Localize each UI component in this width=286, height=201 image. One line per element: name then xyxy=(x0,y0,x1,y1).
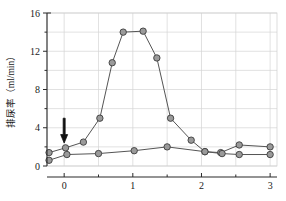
data-point xyxy=(188,137,194,143)
series-line-0 xyxy=(49,31,270,152)
data-point xyxy=(154,55,160,61)
data-point xyxy=(62,145,68,151)
annotations-group xyxy=(61,118,68,143)
data-point xyxy=(120,29,126,35)
injection-arrow xyxy=(61,118,68,143)
data-point xyxy=(236,142,242,148)
data-point xyxy=(267,144,273,150)
data-point xyxy=(267,151,273,157)
data-point xyxy=(97,115,103,121)
y-axis-title: 排尿率（ml/min） xyxy=(5,51,16,128)
y-tick-label: 0 xyxy=(35,161,40,172)
data-point xyxy=(109,60,115,66)
y-tick-label: 8 xyxy=(35,84,40,95)
x-tick-label: 3 xyxy=(268,180,273,191)
data-point xyxy=(131,148,137,154)
urine-flow-rate-line-chart: 04812160123 排尿率（ml/min） xyxy=(0,0,286,201)
figure-container: 04812160123 排尿率（ml/min） xyxy=(0,0,286,201)
y-tick-label: 16 xyxy=(30,8,40,19)
y-tick-label: 4 xyxy=(35,122,40,133)
data-point xyxy=(64,151,70,157)
data-point xyxy=(164,144,170,150)
data-point xyxy=(202,148,208,154)
axis-titles-group: 排尿率（ml/min） xyxy=(5,51,16,128)
x-tick-label: 0 xyxy=(62,180,67,191)
series-markers-group xyxy=(46,28,273,163)
data-point xyxy=(167,115,173,121)
x-tick-label: 2 xyxy=(199,180,204,191)
data-point xyxy=(219,150,225,156)
data-point xyxy=(140,28,146,34)
x-tick-label: 1 xyxy=(130,180,135,191)
tick-labels-group: 04812160123 xyxy=(30,8,273,192)
data-point xyxy=(236,151,242,157)
data-point xyxy=(95,150,101,156)
data-point xyxy=(80,139,86,145)
y-tick-label: 12 xyxy=(30,46,40,57)
